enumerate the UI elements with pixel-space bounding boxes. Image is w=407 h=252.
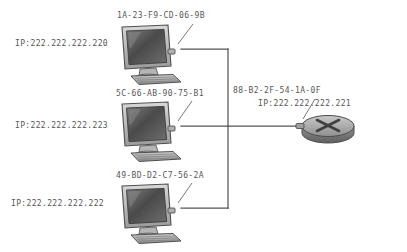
computer-icon-pc3 <box>122 184 181 244</box>
computer-icon-pc2 <box>122 102 181 162</box>
router-icon <box>296 116 354 144</box>
network-diagram: 1A-23-F9-CD-06-9B IP:222.222.222.220 5C-… <box>0 0 407 252</box>
pc2-mac-label: 5C-66-AB-90-75-B1 <box>116 89 204 99</box>
pc1-ip-label: IP:222.222.222.220 <box>15 39 108 49</box>
router-mac-label: 88-B2-2F-54-1A-0F <box>233 86 321 96</box>
pc1-mac-label: 1A-23-F9-CD-06-9B <box>117 11 205 21</box>
leader-pc3-mac <box>178 183 192 203</box>
router-ip-label: IP:222.222.222.221 <box>258 99 351 109</box>
pc3-ip-label: IP:222.222.222.222 <box>11 199 104 209</box>
pc3-mac-label: 49-BD-D2-C7-56-2A <box>116 171 204 181</box>
network-links <box>181 49 300 208</box>
pc2-ip-label: IP:222.222.222.223 <box>15 121 108 131</box>
leader-pc1-mac <box>178 24 193 44</box>
leader-pc2-mac <box>178 101 192 121</box>
computer-icon-pc1 <box>122 25 181 85</box>
